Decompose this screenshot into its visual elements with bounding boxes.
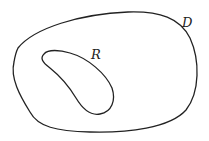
outer-region-d-boundary [13,12,197,132]
label-d: D [182,16,192,29]
diagram-canvas: D R [0,0,209,141]
inner-region-r-boundary [42,51,114,115]
label-r: R [91,48,101,61]
region-diagram [0,0,209,141]
